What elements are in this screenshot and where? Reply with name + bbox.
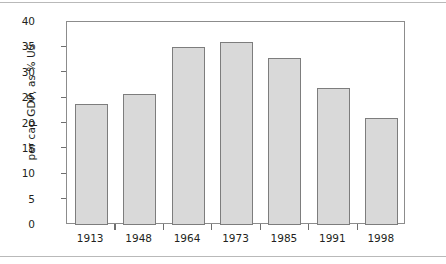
y-tick-label: 35 (4, 41, 35, 51)
y-tick-label: 10 (4, 168, 35, 178)
bar (365, 118, 398, 225)
bar-chart: per cap GDP, as % US 0510152025303540 19… (0, 0, 446, 264)
x-tick-mark (308, 224, 309, 230)
x-tick-mark (211, 224, 212, 230)
y-tick-label: 25 (4, 92, 35, 102)
x-tick-mark (163, 224, 164, 230)
y-tick-label: 20 (4, 118, 35, 128)
bar (317, 88, 350, 225)
plot-area (66, 21, 405, 224)
bar (268, 58, 301, 225)
bar (75, 104, 108, 225)
x-tick-mark (114, 224, 115, 230)
y-tick-label: 40 (4, 16, 35, 26)
bar (220, 42, 253, 225)
page-rule-top (0, 2, 446, 3)
y-tick-label: 0 (4, 219, 35, 229)
page-rule-bottom (0, 256, 446, 257)
x-tick-label: 1998 (351, 232, 411, 244)
bar (172, 47, 205, 225)
x-tick-mark (260, 224, 261, 230)
bars-layer (67, 22, 404, 223)
y-tick-label: 5 (4, 194, 35, 204)
y-tick-label: 15 (4, 143, 35, 153)
bar (123, 94, 156, 225)
y-tick-label: 30 (4, 67, 35, 77)
x-tick-mark (357, 224, 358, 230)
